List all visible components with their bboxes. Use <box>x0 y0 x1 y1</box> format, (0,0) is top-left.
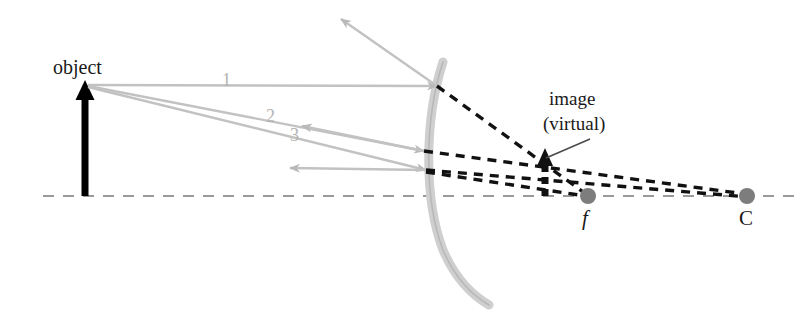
reflected-ray-2 <box>302 126 424 151</box>
diagram-canvas: object image (virtual) f C 1 2 3 <box>0 0 807 333</box>
ray-2-label: 2 <box>266 106 275 126</box>
reflected-ray-3 <box>290 168 426 170</box>
incident-ray-3 <box>88 87 426 170</box>
focal-point-marker <box>580 188 596 204</box>
image-label-leader-line <box>546 139 590 158</box>
center-of-curvature-marker <box>739 188 755 204</box>
ray-1-label: 1 <box>222 70 231 90</box>
object-label: object <box>53 56 102 79</box>
reflected-rays <box>290 19 437 170</box>
ray-3-label: 3 <box>290 125 299 145</box>
incident-rays <box>88 85 437 170</box>
object-arrow <box>76 80 95 196</box>
incident-ray-1 <box>88 85 437 86</box>
center-of-curvature-label: C <box>739 206 753 230</box>
image-label-line1: image <box>549 88 595 109</box>
reflected-ray-1 <box>341 19 437 86</box>
image-label-line2: (virtual) <box>543 113 605 135</box>
optics-ray-diagram: object image (virtual) f C 1 2 3 <box>0 0 807 333</box>
virtual-ray-2 <box>424 151 745 194</box>
mirror-surface <box>429 62 489 305</box>
focal-point-label: f <box>582 206 591 230</box>
